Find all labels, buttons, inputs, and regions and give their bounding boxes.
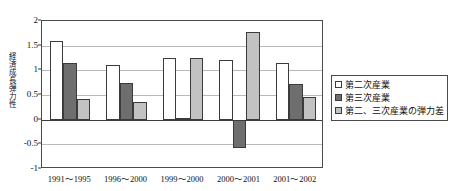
y-tick-label: 0.5 [27, 90, 38, 99]
legend-item: 第三次産業 [335, 91, 444, 104]
bar [219, 60, 233, 119]
bar [63, 63, 77, 120]
plot-area [41, 20, 323, 168]
bar [289, 84, 303, 120]
x-category-label: 1991〜1995 [48, 174, 91, 184]
x-category-label: 1999〜2000 [161, 174, 204, 184]
legend-swatch-icon [335, 94, 342, 101]
bar [176, 118, 190, 120]
y-tick-label: -1 [31, 164, 39, 173]
bar [303, 97, 317, 119]
bar [77, 99, 91, 120]
y-tick-label: 1 [34, 65, 39, 74]
legend-item: 第二次産業 [335, 78, 444, 91]
bar [233, 120, 247, 148]
y-axis-title: 経済成長弾力性 [1, 52, 15, 108]
legend-label: 第二、三次産業の弾力差 [345, 106, 444, 116]
y-tick-label: 1.5 [27, 40, 38, 49]
x-category-label: 2001〜2002 [273, 174, 316, 184]
bar [276, 63, 290, 120]
bar [133, 102, 147, 119]
bar [50, 41, 64, 120]
bar [163, 58, 177, 120]
bar [246, 32, 260, 120]
x-category-label: 1996〜2000 [104, 174, 147, 184]
bar [190, 58, 204, 120]
x-axis-category-labels: 1991〜19951996〜20001999〜20002000〜20012001… [41, 148, 323, 166]
x-category-label: 2000〜2001 [217, 174, 260, 184]
legend-label: 第二次産業 [345, 80, 390, 90]
legend-swatch-icon [335, 81, 342, 88]
y-tick-label: -0.5 [24, 139, 38, 148]
legend-item: 第二、三次産業の弾力差 [335, 104, 444, 117]
chart-legend: 第二次産業第三次産業第二、三次産業の弾力差 [331, 75, 448, 121]
bar [120, 83, 134, 120]
bar-chart: 経済成長弾力性 21.510.50-0.5-1 1991〜19951996〜20… [0, 0, 462, 191]
bar-series-layer [42, 21, 322, 167]
y-axis-tick-labels: 21.510.50-0.5-1 [14, 0, 40, 191]
legend-swatch-icon [335, 107, 342, 114]
y-tick-label: 0 [34, 114, 39, 123]
y-tick-label: 2 [34, 16, 39, 25]
legend-label: 第三次産業 [345, 93, 390, 103]
bar [106, 65, 120, 119]
